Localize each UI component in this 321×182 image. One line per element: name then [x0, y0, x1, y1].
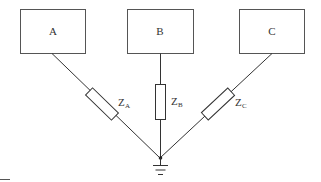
label-za-symbol: Z — [118, 96, 125, 108]
resistor-za-icon — [86, 88, 119, 120]
node-c-label: C — [268, 25, 275, 37]
ground-icon — [153, 158, 168, 175]
impedance-za — [86, 88, 119, 120]
resistor-zb-icon — [156, 85, 166, 120]
label-zc: Z C — [235, 96, 247, 110]
star-network-diagram: A B C Z A Z B Z C — [0, 0, 321, 182]
label-zb-subscript: B — [178, 101, 183, 109]
node-b: B — [128, 10, 194, 54]
impedance-zc — [201, 88, 234, 120]
node-b-label: B — [156, 25, 163, 37]
resistor-zc-icon — [201, 88, 234, 120]
label-za: Z A — [118, 96, 130, 110]
label-zc-symbol: Z — [235, 96, 242, 108]
label-zb: Z B — [171, 95, 183, 109]
label-zb-symbol: Z — [171, 95, 178, 107]
node-a: A — [21, 10, 86, 54]
impedance-zb — [156, 85, 166, 120]
node-a-label: A — [49, 25, 57, 37]
label-zc-subscript: C — [242, 102, 247, 110]
node-c: C — [240, 10, 305, 54]
label-za-subscript: A — [125, 102, 130, 110]
